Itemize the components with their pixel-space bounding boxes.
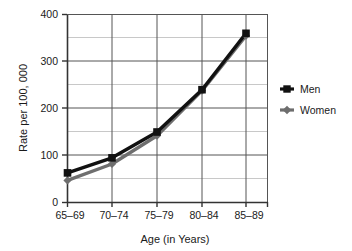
x-tick-label-75-79: 75–79 xyxy=(144,209,173,221)
x-axis-title: Age (in Years) xyxy=(140,233,209,245)
x-tick-label-80-84: 80–84 xyxy=(189,209,218,221)
x-tick-label-65-69: 65–69 xyxy=(55,209,84,221)
x-tick-label-85-89: 85–89 xyxy=(234,209,263,221)
y-tick-label-0: 0 xyxy=(52,196,58,208)
x-tick-label-70-74: 70–74 xyxy=(99,209,128,221)
y-tick-label-300: 300 xyxy=(40,55,58,67)
line-chart: 0 100 200 300 400 65–69 70–74 75–79 80–8… xyxy=(0,0,352,251)
legend-item-women[interactable]: Women xyxy=(280,104,336,116)
y-tick-label-400: 400 xyxy=(40,8,58,20)
legend-marker-men-square-icon xyxy=(283,85,290,92)
chart-container: 0 100 200 300 400 65–69 70–74 75–79 80–8… xyxy=(0,0,352,251)
legend: Men Women xyxy=(280,83,336,116)
y-axis-title: Rate per 100, 000 xyxy=(17,64,29,152)
y-tick-label-200: 200 xyxy=(40,102,58,114)
legend-marker-women-diamond-icon xyxy=(283,106,292,115)
y-tick-label-100: 100 xyxy=(40,149,58,161)
legend-item-men[interactable]: Men xyxy=(280,83,321,95)
legend-label-men: Men xyxy=(300,83,321,95)
legend-label-women: Women xyxy=(300,104,336,116)
